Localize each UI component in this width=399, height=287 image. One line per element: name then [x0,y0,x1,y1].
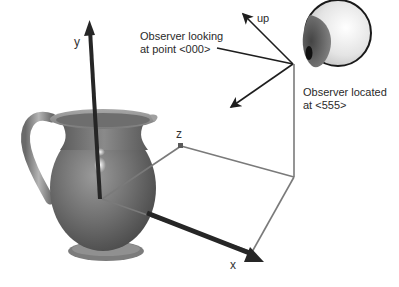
x-axis-label: x [230,259,236,271]
eyeball-icon [303,0,371,67]
observer-location-line1: Observer located [303,86,387,98]
observer-location-line2: at <555> [303,99,346,111]
box-top-edge [181,146,294,177]
look-at-line [217,48,293,64]
x-axis-arrow [147,213,264,262]
look-at-label-line1: Observer looking [140,30,223,42]
diagram-canvas: y z x up Observer looking at point <000>… [0,0,399,287]
z-axis-label: z [176,128,182,140]
look-at-label-line2: at point <000> [140,43,210,55]
up-vector-label: up [257,12,269,24]
y-axis-label: y [74,36,80,48]
view-direction-arrow [231,64,293,107]
z-axis-tip [178,143,183,148]
pitcher-handle [26,116,52,200]
pitcher [50,109,157,261]
box-right-edge [252,177,294,252]
observer-vectors [217,14,293,107]
